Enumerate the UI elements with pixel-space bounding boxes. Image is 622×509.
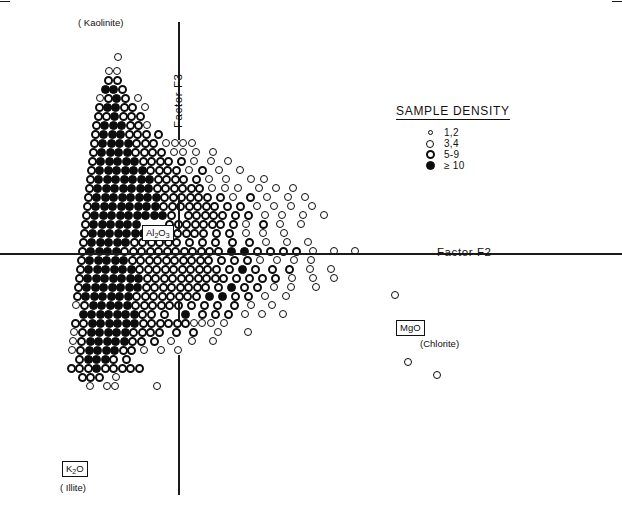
- data-point: [198, 319, 206, 327]
- data-point: [128, 337, 137, 346]
- data-point: [301, 193, 309, 201]
- data-point: [212, 265, 221, 274]
- data-point: [118, 85, 127, 94]
- data-point: [253, 202, 261, 210]
- data-point: [137, 337, 146, 346]
- data-point: [153, 256, 162, 265]
- data-point: [154, 130, 163, 139]
- data-point: [214, 283, 223, 292]
- data-point: [95, 373, 104, 382]
- data-point: [234, 184, 242, 192]
- data-point: [203, 265, 212, 274]
- data-point: [284, 193, 292, 201]
- data-point: [270, 202, 278, 210]
- data-point: [312, 283, 320, 291]
- data-point: [97, 301, 106, 310]
- data-point: [160, 193, 169, 202]
- data-point: [99, 283, 108, 292]
- data-point: [94, 175, 103, 184]
- data-point: [112, 166, 121, 175]
- data-point: [201, 283, 210, 292]
- data-point: [246, 193, 255, 202]
- data-point: [258, 274, 267, 283]
- data-point: [173, 229, 182, 238]
- data-point: [72, 301, 80, 309]
- data-point: [89, 220, 98, 229]
- mgo-label: MgO: [396, 320, 425, 336]
- data-point: [280, 229, 288, 237]
- data-point: [433, 371, 441, 379]
- data-point: [170, 256, 179, 265]
- data-point: [95, 166, 104, 175]
- legend-entry: 1,2: [422, 127, 510, 138]
- data-point: [289, 184, 297, 192]
- data-point: [110, 184, 119, 193]
- data-point: [185, 274, 194, 283]
- data-point: [198, 166, 207, 175]
- data-point: [132, 292, 141, 301]
- data-point: [200, 301, 209, 310]
- data-point: [214, 328, 222, 336]
- data-point: [218, 211, 227, 220]
- sample-density-factor-plot: Factor F2 Factor F3 SAMPLE DENSITY 1,23,…: [0, 0, 622, 509]
- data-point: [96, 157, 105, 166]
- data-point: [185, 238, 194, 247]
- data-point: [95, 328, 104, 337]
- data-point: [213, 301, 222, 310]
- data-point: [189, 328, 198, 337]
- data-point: [287, 202, 295, 210]
- data-point: [131, 301, 140, 310]
- data-point: [209, 211, 218, 220]
- factor-f2-axis-line: [0, 253, 622, 255]
- data-point: [157, 148, 166, 157]
- data-point: [174, 346, 182, 354]
- data-point: [188, 139, 196, 147]
- data-point: [150, 283, 159, 292]
- data-point: [150, 337, 159, 346]
- data-point: [297, 220, 305, 228]
- data-point: [123, 220, 132, 229]
- data-point: [143, 121, 151, 129]
- data-point: [232, 274, 241, 283]
- data-point: [185, 166, 193, 174]
- data-point: [104, 76, 113, 85]
- data-point: [99, 130, 108, 139]
- legend-entry: ≥ 10: [422, 160, 510, 171]
- data-point: [117, 274, 126, 283]
- data-point: [133, 130, 142, 139]
- data-point: [245, 238, 254, 247]
- data-point: [203, 193, 212, 202]
- data-point: [122, 229, 131, 238]
- data-point: [133, 283, 142, 292]
- data-point: [238, 265, 247, 274]
- data-point: [112, 94, 121, 103]
- data-point: [320, 211, 328, 219]
- data-point: [102, 256, 111, 265]
- data-point: [75, 364, 84, 373]
- data-point: [96, 319, 105, 328]
- data-point: [255, 184, 263, 192]
- data-point: [188, 337, 196, 345]
- data-point: [98, 292, 107, 301]
- data-point: [208, 184, 216, 192]
- data-point: [216, 193, 225, 202]
- factor-f2-axis-label: Factor F2: [437, 246, 492, 258]
- data-point: [105, 67, 113, 75]
- data-point: [128, 103, 137, 112]
- data-point: [115, 139, 124, 148]
- data-point: [92, 355, 101, 364]
- data-point: [225, 229, 234, 238]
- data-point: [229, 193, 237, 201]
- data-point: [211, 310, 220, 319]
- data-point: [84, 265, 93, 274]
- data-point: [231, 292, 240, 301]
- data-point: [192, 175, 201, 184]
- data-point: [111, 103, 120, 112]
- data-point: [124, 211, 133, 220]
- data-point: [327, 265, 335, 273]
- data-point: [209, 337, 217, 345]
- data-point: [92, 193, 101, 202]
- data-point: [134, 274, 143, 283]
- data-point: [88, 229, 97, 238]
- data-point: [220, 319, 228, 327]
